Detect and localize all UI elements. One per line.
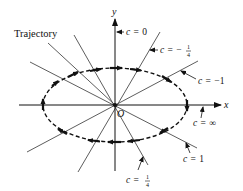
isocline-label-c-minus-1: c = −1 <box>198 76 225 86</box>
isocline-label-c0: c = 0 <box>126 27 147 37</box>
fraction-denominator: 4 <box>146 182 149 188</box>
y-axis-label: y <box>111 6 117 17</box>
c-inf-leader-arrow-icon <box>201 107 203 118</box>
arrow-icon <box>128 140 140 142</box>
isocline-c-minus-quarter-line <box>78 32 160 172</box>
arrow-icon <box>90 69 101 71</box>
isocline-c-minus-1-line <box>27 61 198 152</box>
c-quarter-leader-arrow-icon <box>138 157 143 170</box>
direction-field-diagram: y x O Trajectory c = 0 c = − 1 4 c = −1 … <box>0 0 243 191</box>
origin-point <box>113 103 117 107</box>
trajectory-label: Trajectory <box>14 28 58 39</box>
arrow-icon <box>130 69 141 71</box>
fraction-numerator: 1 <box>146 174 149 180</box>
arrow-icon <box>68 72 78 77</box>
fraction-numerator: 1 <box>187 44 190 50</box>
arrow-icon <box>88 140 100 142</box>
isocline-label-c-1: c = 1 <box>183 154 204 164</box>
isocline-c-quarter-line <box>74 35 148 165</box>
c-minus-1-leader-arrow-icon <box>181 71 196 79</box>
isocline-label-c-minus-quarter: c = − <box>160 45 182 55</box>
origin-label: O <box>117 108 124 119</box>
isocline-label-c-infinity: c = ∞ <box>193 118 216 128</box>
x-axis-label: x <box>223 99 229 110</box>
trajectory-leader-line <box>48 43 115 105</box>
isocline-label-c-quarter: c = <box>126 175 139 185</box>
fraction-denominator: 4 <box>187 52 190 58</box>
